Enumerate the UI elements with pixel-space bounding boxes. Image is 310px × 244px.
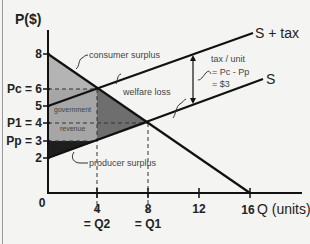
origin-label: 0 <box>39 196 46 210</box>
y-tick-p1: P1 = 4 <box>7 116 42 130</box>
tax-amount-label: = $3 <box>212 79 230 89</box>
consumer-surplus-label: consumer surplus <box>89 50 161 60</box>
y-axis-label: P($) <box>15 11 41 27</box>
x-tick-8: 8 <box>145 202 152 216</box>
revenue-label: revenue <box>60 125 85 132</box>
welfare-loss-label: welfare loss <box>122 87 171 97</box>
y-tick-2: 2 <box>35 151 42 165</box>
x-tick-12: 12 <box>192 202 206 216</box>
y-tick-5: 5 <box>35 99 42 113</box>
x-tick-16: 16 <box>241 203 255 217</box>
y-tick-pc: Pc = 6 <box>7 82 42 96</box>
x-axis-label: Q (units) <box>257 201 310 217</box>
tax-formula-label: = Pc - Pp <box>212 67 249 77</box>
producer-surplus-label: producer surplus <box>89 158 157 168</box>
x-tick-4: 4 <box>94 202 101 216</box>
tax-per-unit-label: tax / unit <box>211 54 246 64</box>
government-label: government <box>54 106 91 114</box>
x-tick-q2: = Q2 <box>84 217 111 231</box>
y-tick-8: 8 <box>35 47 42 61</box>
supply-plus-tax-label: S + tax <box>255 25 299 41</box>
x-tick-q1: = Q1 <box>135 217 162 231</box>
y-tick-pp: Pp = 3 <box>6 134 42 148</box>
tax-per-unit-arrow <box>190 55 196 104</box>
tax-incidence-chart: P($) Q (units) 0 8 Pc = 6 5 P1 = 4 Pp = … <box>0 0 310 244</box>
supply-label: S <box>266 71 275 87</box>
